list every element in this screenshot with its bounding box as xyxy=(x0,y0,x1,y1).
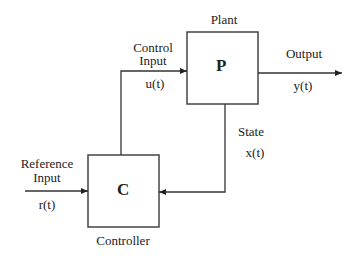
diagram-canvas xyxy=(0,0,360,260)
controller-symbol: C xyxy=(117,180,129,200)
controller-title: Controller xyxy=(86,234,160,248)
plant-symbol: P xyxy=(216,56,226,76)
output-var: y(t) xyxy=(278,79,328,93)
state-var: x(t) xyxy=(230,146,280,160)
reference-input-label-line2: Input xyxy=(12,171,82,185)
control-input-var: u(t) xyxy=(130,77,180,91)
output-label: Output xyxy=(274,47,334,61)
state-feedback-arrow xyxy=(159,104,225,192)
state-label: State xyxy=(226,125,276,139)
reference-input-label-line1: Reference xyxy=(12,157,82,171)
control-input-label-line2: Input xyxy=(118,54,188,68)
plant-title: Plant xyxy=(200,13,248,27)
reference-input-var: r(t) xyxy=(22,198,72,212)
